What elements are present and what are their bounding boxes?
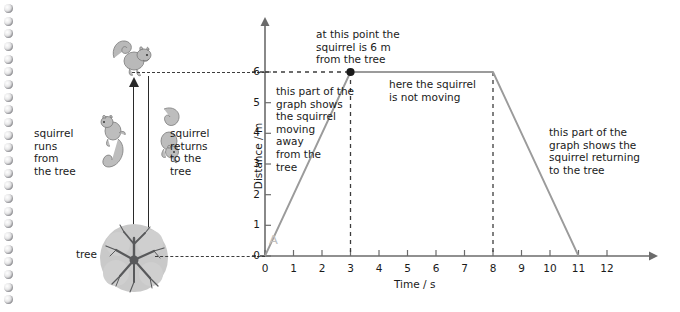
label-squirrel-returns-to-tree: squirrel returns to the tree — [170, 127, 230, 177]
ytick-1: 1 — [246, 218, 260, 230]
arrow-up-head-icon — [129, 77, 139, 87]
annotation-not-moving: here the squirrel is not moving — [389, 78, 493, 103]
annotation-moving-away: this part of the graph shows the squirre… — [276, 85, 356, 173]
label-tree: tree — [57, 248, 97, 261]
annotation-at-this-point: at this point the squirrel is 6 m from t… — [316, 28, 420, 66]
xtick-2: 2 — [314, 262, 330, 274]
label-squirrel-runs-from-tree: squirrel runs from the tree — [34, 127, 96, 177]
xtick-9: 9 — [514, 262, 530, 274]
binding-hole — [4, 283, 13, 292]
xtick-3: 3 — [343, 262, 359, 274]
x-axis-label: Time / s — [394, 278, 435, 290]
y-axis-label: Distance / m — [252, 106, 264, 206]
xtick-10: 10 — [542, 262, 558, 274]
binding-hole — [4, 295, 13, 304]
binding-hole — [4, 156, 13, 165]
squirrel-icon — [110, 38, 154, 80]
binding-hole — [4, 17, 13, 26]
xtick-8: 8 — [485, 262, 501, 274]
binding-hole — [4, 270, 13, 279]
tree-icon — [94, 218, 174, 298]
distance-time-graph: 0 1 2 3 4 5 6 7 8 9 10 11 12 0 1 2 3 4 5… — [244, 0, 680, 312]
binding-hole — [4, 131, 13, 140]
binding-hole — [4, 80, 13, 89]
illustration-panel: squirrel runs from the tree squirrel ret… — [22, 0, 244, 312]
binding-hole — [4, 143, 13, 152]
xtick-11: 11 — [571, 262, 587, 274]
binding-hole — [4, 55, 13, 64]
spiral-binding — [0, 0, 22, 312]
binding-hole — [4, 105, 13, 114]
binding-hole — [4, 232, 13, 241]
binding-hole — [4, 4, 13, 13]
xtick-4: 4 — [371, 262, 387, 274]
point-marker-label: A — [269, 232, 278, 247]
squirrel-icon — [96, 115, 132, 173]
binding-hole — [4, 67, 13, 76]
binding-hole — [4, 194, 13, 203]
xtick-1: 1 — [286, 262, 302, 274]
binding-hole — [4, 257, 13, 266]
binding-hole — [4, 42, 13, 51]
annotation-returning: this part of the graph shows the squirre… — [549, 126, 649, 176]
binding-hole — [4, 181, 13, 190]
binding-hole — [4, 118, 13, 127]
ytick-0: 0 — [246, 249, 260, 261]
binding-hole — [4, 169, 13, 178]
xtick-7: 7 — [457, 262, 473, 274]
binding-hole — [4, 207, 13, 216]
xtick-12: 12 — [599, 262, 615, 274]
binding-hole — [4, 93, 13, 102]
binding-hole — [4, 29, 13, 38]
xtick-5: 5 — [400, 262, 416, 274]
xtick-6: 6 — [428, 262, 444, 274]
binding-hole — [4, 219, 13, 228]
binding-hole — [4, 245, 13, 254]
worksheet-page: squirrel runs from the tree squirrel ret… — [0, 0, 680, 312]
ytick-6: 6 — [246, 65, 260, 77]
xtick-0: 0 — [257, 262, 273, 274]
